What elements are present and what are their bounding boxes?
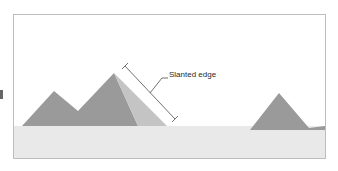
right-pyramid xyxy=(250,93,325,130)
pyramids-illustration xyxy=(14,15,325,158)
slanted-edge-label: Slanted edge xyxy=(169,70,216,79)
diagram-frame xyxy=(13,14,326,159)
ground xyxy=(14,126,325,158)
leader-line xyxy=(150,78,168,93)
margin-mark xyxy=(0,90,3,99)
